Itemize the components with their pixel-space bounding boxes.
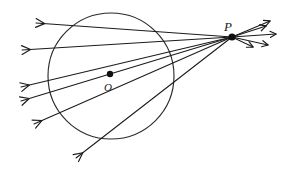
short-rays-layer: [232, 21, 276, 47]
geometry-canvas: P O: [0, 0, 281, 172]
geometry-diagram: P O: [0, 0, 281, 172]
secant-ray-2: [22, 37, 232, 50]
secant-rays-layer: [21, 23, 232, 158]
center-point-o: [107, 71, 113, 77]
secant-ray-4: [21, 37, 232, 101]
secant-ray-1: [36, 23, 232, 37]
secant-ray-5: [34, 37, 232, 124]
external-point-p: [228, 33, 235, 40]
short-ray-4: [232, 37, 268, 45]
label-point-o: O: [104, 81, 112, 93]
label-point-p: P: [223, 19, 232, 34]
